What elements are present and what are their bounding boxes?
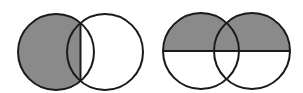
venn-left: [0, 0, 143, 93]
venn-diagrams: [0, 0, 303, 93]
venn-right: [163, 13, 290, 89]
shaded-region-left-of-chord: [0, 0, 81, 93]
